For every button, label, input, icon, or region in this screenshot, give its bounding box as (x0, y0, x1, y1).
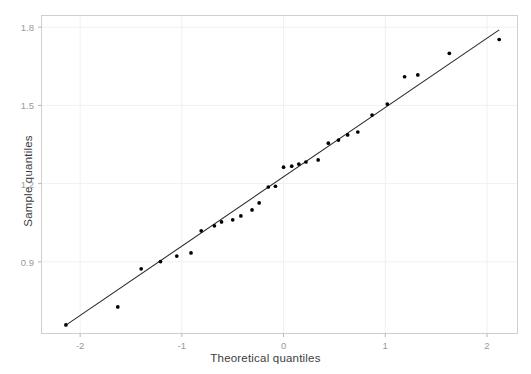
data-point (316, 158, 320, 162)
data-point (416, 73, 420, 77)
data-point (497, 38, 501, 42)
y-tick-label: 1.5 (8, 100, 34, 111)
data-point (139, 267, 143, 271)
data-point (356, 130, 360, 134)
data-point (297, 162, 301, 166)
qq-plot-figure: Theoretical quantiles Sample quantiles -… (0, 0, 531, 374)
data-point (64, 323, 68, 327)
data-point (189, 251, 193, 255)
data-point (159, 260, 163, 264)
data-point (175, 254, 179, 258)
plot-canvas (0, 0, 531, 374)
data-point (220, 220, 224, 224)
y-tick-label: 1.8 (8, 22, 34, 33)
data-point (346, 133, 350, 137)
x-tick-label: -1 (178, 340, 186, 351)
data-point (326, 141, 330, 145)
data-point (282, 165, 286, 169)
x-tick-label: 2 (484, 340, 489, 351)
data-point (231, 218, 235, 222)
data-point (290, 164, 294, 168)
data-point (266, 185, 270, 189)
data-point (370, 113, 374, 117)
y-tick-label: 1.2 (8, 178, 34, 189)
data-point (257, 201, 261, 205)
data-point (213, 224, 217, 228)
data-point (250, 208, 254, 212)
data-point (274, 184, 278, 188)
data-point (448, 51, 452, 55)
x-tick-label: -2 (76, 340, 84, 351)
y-tick-label: 0.9 (8, 256, 34, 267)
data-point (337, 138, 341, 142)
x-tick-label: 1 (383, 340, 388, 351)
data-point (385, 102, 389, 106)
data-point (199, 229, 203, 233)
data-point (403, 75, 407, 79)
data-point (239, 214, 243, 218)
data-point (116, 305, 120, 309)
data-point (304, 160, 308, 164)
x-axis-title: Theoretical quantiles (0, 352, 531, 364)
x-tick-label: 0 (281, 340, 286, 351)
